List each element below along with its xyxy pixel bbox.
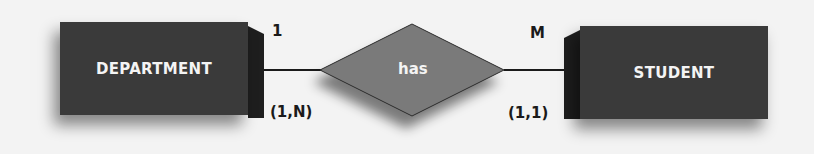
entity-department[interactable]: DEPARTMENT (60, 22, 248, 115)
department-cardinality: 1 (272, 22, 282, 40)
student-box-side (564, 30, 580, 119)
department-box-side (248, 26, 264, 118)
entity-student-label: STUDENT (634, 64, 715, 82)
relationship-has-label: has (398, 60, 428, 78)
entity-department-label: DEPARTMENT (96, 60, 212, 78)
relationship-has-diamond[interactable] (300, 20, 530, 140)
student-participation: (1,1) (508, 104, 548, 122)
er-diagram: DEPARTMENT 1 (1,N) has STUDENT M (1,1) (0, 0, 814, 154)
entity-student[interactable]: STUDENT (580, 26, 768, 119)
student-cardinality: M (530, 24, 545, 42)
